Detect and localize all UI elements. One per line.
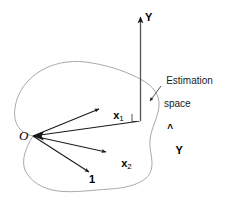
- fitted-vector-hat-wrap: ^Y: [157, 131, 183, 168]
- origin-label: O: [19, 129, 28, 144]
- regressor-1-subscript: 1: [119, 114, 123, 123]
- regressor-1-label: x1: [101, 97, 124, 135]
- estimation-space-annotation: Estimation space: [155, 64, 213, 131]
- annotation-line-1: Estimation: [166, 75, 213, 86]
- estimation-space-diagram: Y ^Y x1 x2 1 O Estimation space: [0, 0, 228, 205]
- estimation-space-blob: [15, 61, 160, 191]
- annotation-line-2: space: [155, 98, 213, 109]
- regressor-2-subscript: 2: [127, 162, 131, 171]
- right-angle-marker: [132, 114, 140, 122]
- constant-vector-line: [33, 136, 89, 172]
- fitted-vector-base-letter: Y: [176, 144, 183, 156]
- regressor-2-label: x2: [109, 145, 132, 183]
- regressor-2-vector-line: [33, 136, 106, 152]
- constant-vector-label: 1: [89, 173, 95, 185]
- response-vector-label: Y: [145, 11, 152, 23]
